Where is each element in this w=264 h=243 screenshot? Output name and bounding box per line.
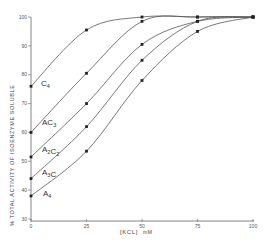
data-point bbox=[196, 20, 199, 23]
data-point bbox=[30, 131, 33, 134]
x-tick-label: 100 bbox=[249, 223, 258, 229]
data-point bbox=[30, 156, 33, 159]
y-axis-label: % TOTAL ACTIVITY OF ISOENZYME SOLUBLE bbox=[9, 85, 15, 226]
y-tick-label: 40 bbox=[21, 187, 27, 193]
data-point bbox=[85, 29, 88, 32]
series-label-c4: C4 bbox=[41, 79, 50, 89]
y-tick-label: 30 bbox=[21, 216, 27, 222]
series-label-a3c: A3C bbox=[42, 168, 56, 179]
y-tick-label: 80 bbox=[21, 71, 27, 77]
data-point bbox=[85, 150, 88, 153]
y-tick-label: 70 bbox=[21, 100, 27, 106]
data-point bbox=[141, 79, 144, 82]
data-point bbox=[141, 16, 144, 19]
y-tick-label: 50 bbox=[21, 158, 27, 164]
x-tick-label: 0 bbox=[30, 223, 33, 229]
data-point bbox=[85, 102, 88, 105]
data-markers bbox=[30, 16, 255, 198]
data-point bbox=[85, 72, 88, 75]
data-point bbox=[30, 195, 33, 198]
data-point bbox=[30, 85, 33, 88]
series-label-a4: A4 bbox=[43, 189, 51, 199]
curve-ac3 bbox=[31, 16, 253, 133]
data-point bbox=[196, 16, 199, 19]
curves bbox=[31, 16, 253, 196]
x-tick-label: 25 bbox=[84, 223, 90, 229]
x-axis-label: [KCL] bbox=[120, 229, 138, 235]
curve-a3c bbox=[31, 17, 253, 179]
data-point bbox=[196, 30, 199, 33]
isoenzyme-solubility-chart: 304050607080901000255075100 C4AC3A2C2A3C… bbox=[0, 0, 264, 243]
data-point bbox=[141, 43, 144, 46]
y-tick-label: 100 bbox=[19, 14, 28, 20]
data-point bbox=[252, 16, 255, 19]
data-point bbox=[141, 20, 144, 23]
data-point bbox=[141, 59, 144, 62]
data-point bbox=[85, 125, 88, 128]
x-tick-label: 75 bbox=[195, 223, 201, 229]
y-tick-label: 60 bbox=[21, 129, 27, 135]
curve-c4 bbox=[31, 16, 253, 86]
curve-a2c2 bbox=[31, 17, 253, 157]
y-tick-label: 90 bbox=[21, 43, 27, 49]
series-label-a2c2: A2C2 bbox=[42, 145, 59, 157]
series-label-ac3: AC3 bbox=[42, 118, 56, 128]
x-axis-unit: mM bbox=[143, 229, 153, 235]
data-point bbox=[30, 177, 33, 180]
